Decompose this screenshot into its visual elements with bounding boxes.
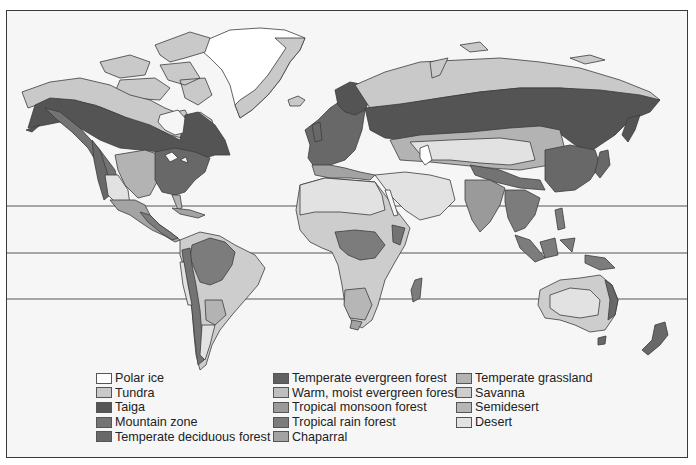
legend-item-semidesert: Semidesert bbox=[456, 400, 593, 415]
polar-ice-swatch bbox=[96, 373, 112, 384]
tropical-monsoon-forest-swatch bbox=[273, 402, 289, 413]
legend-label: Temperate evergreen forest bbox=[292, 371, 447, 385]
sahara-desert bbox=[300, 178, 385, 215]
temperate-evergreen-forest-swatch bbox=[273, 373, 289, 384]
legend-label: Warm, moist evergreen forest bbox=[292, 386, 457, 400]
chaparral-swatch bbox=[273, 431, 289, 442]
india-monsoon-forest bbox=[465, 180, 505, 232]
legend-item-tropical-rain-forest: Tropical rain forest bbox=[273, 415, 457, 430]
legend-item-chaparral: Chaparral bbox=[273, 429, 457, 444]
tundra-swatch bbox=[96, 387, 112, 398]
legend-column-3: Temperate grassland Savanna Semidesert D… bbox=[456, 371, 593, 429]
us-deciduous-forest bbox=[155, 148, 210, 195]
legend-label: Desert bbox=[475, 415, 512, 429]
legend-item-savanna: Savanna bbox=[456, 386, 593, 401]
legend-item-temperate-evergreen-forest: Temperate evergreen forest bbox=[273, 371, 457, 386]
madagascar bbox=[411, 278, 422, 302]
temperate-deciduous-forest-swatch bbox=[96, 431, 112, 442]
southeast-asia-rain-forest bbox=[505, 190, 540, 232]
philippines bbox=[555, 208, 565, 230]
legend-label: Taiga bbox=[115, 400, 145, 414]
legend-item-desert: Desert bbox=[456, 415, 593, 430]
legend-label: Tropical rain forest bbox=[292, 415, 396, 429]
japan bbox=[595, 150, 610, 178]
mountain-zone-swatch bbox=[96, 417, 112, 428]
warm-moist-evergreen-forest-swatch bbox=[273, 387, 289, 398]
iceland bbox=[288, 96, 305, 106]
legend-label: Tundra bbox=[115, 386, 154, 400]
semidesert-swatch bbox=[456, 402, 472, 413]
legend-item-tundra: Tundra bbox=[96, 386, 270, 401]
legend-label: Polar ice bbox=[115, 371, 164, 385]
savanna-swatch bbox=[456, 387, 472, 398]
legend-label: Savanna bbox=[475, 386, 525, 400]
map-legend: Polar ice Tundra Taiga Mountain zone Tem… bbox=[96, 371, 616, 451]
legend-column-2: Temperate evergreen forest Warm, moist e… bbox=[273, 371, 457, 444]
desert-swatch bbox=[456, 417, 472, 428]
legend-item-taiga: Taiga bbox=[96, 400, 270, 415]
mediterranean-chaparral bbox=[312, 165, 375, 180]
temperate-grassland-swatch bbox=[456, 373, 472, 384]
east-asia-deciduous-forest bbox=[545, 145, 600, 192]
florida bbox=[172, 195, 182, 210]
legend-label: Tropical monsoon forest bbox=[292, 400, 427, 414]
legend-item-temperate-grassland: Temperate grassland bbox=[456, 371, 593, 386]
new-zealand bbox=[642, 322, 668, 355]
legend-item-warm-moist-evergreen-forest: Warm, moist evergreen forest bbox=[273, 386, 457, 401]
legend-item-mountain-zone: Mountain zone bbox=[96, 415, 270, 430]
legend-item-tropical-monsoon-forest: Tropical monsoon forest bbox=[273, 400, 457, 415]
taiga-swatch bbox=[96, 402, 112, 413]
caribbean bbox=[172, 208, 205, 218]
legend-label: Semidesert bbox=[475, 400, 539, 414]
legend-label: Temperate deciduous forest bbox=[115, 430, 270, 444]
legend-label: Mountain zone bbox=[115, 415, 198, 429]
legend-label: Chaparral bbox=[292, 430, 347, 444]
legend-column-1: Polar ice Tundra Taiga Mountain zone Tem… bbox=[96, 371, 270, 444]
legend-item-polar-ice: Polar ice bbox=[96, 371, 270, 386]
tasmania bbox=[598, 336, 606, 345]
cape-chaparral bbox=[350, 320, 362, 330]
legend-label: Temperate grassland bbox=[475, 371, 593, 385]
legend-item-temperate-deciduous-forest: Temperate deciduous forest bbox=[96, 429, 270, 444]
tropical-rain-forest-swatch bbox=[273, 417, 289, 428]
australia-desert bbox=[550, 288, 600, 318]
